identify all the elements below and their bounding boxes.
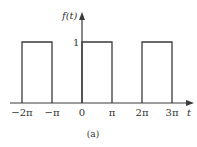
x-axis-label: t [187,107,192,118]
x-tick-3pi: 3π [166,107,179,118]
square-wave-plot: f(t) 1 −2π −π 0 π 2π 3π t (a) [0,0,197,147]
pulse-2 [82,42,112,103]
x-tick-negpi: −π [45,107,60,118]
y-tick-1: 1 [73,37,79,48]
x-tick-pi: π [109,107,116,118]
x-tick-neg2pi: −2π [11,107,33,118]
x-tick-0: 0 [79,107,85,118]
pulse-1 [22,42,52,103]
pulse-3 [142,42,172,103]
y-axis-label: f(t) [61,10,78,21]
x-tick-2pi: 2π [136,107,149,118]
figure-caption: (a) [87,129,99,139]
y-axis-arrow-icon [79,12,85,20]
x-axis-arrow-icon [186,100,194,106]
